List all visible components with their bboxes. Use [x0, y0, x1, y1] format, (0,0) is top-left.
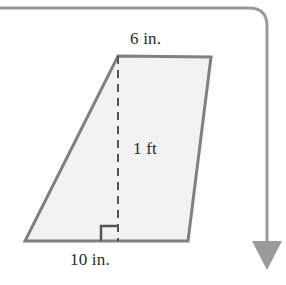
- label-height: 1 ft: [133, 140, 157, 157]
- geometry-figure: 6 in. 1 ft 10 in.: [0, 0, 286, 285]
- flow-arrow-head-icon: [252, 241, 282, 270]
- label-bottom-side: 10 in.: [70, 251, 110, 268]
- label-top-side: 6 in.: [130, 30, 161, 47]
